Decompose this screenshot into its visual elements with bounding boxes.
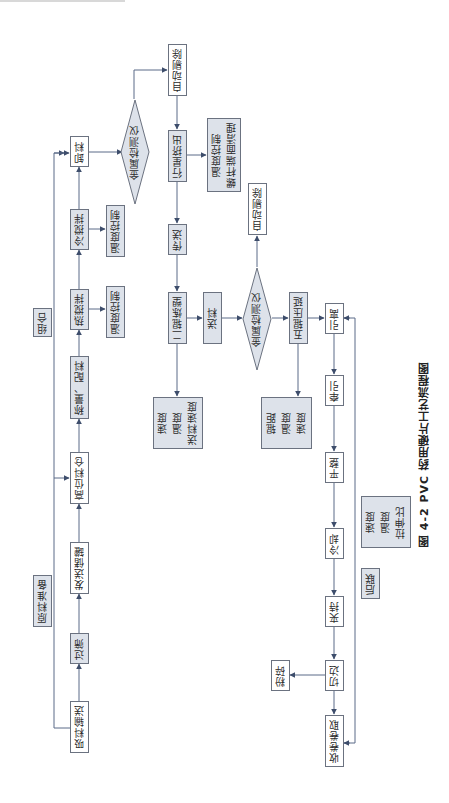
node-label: 五辊压延 [294,296,304,340]
node-label: 自动剔除 [253,187,263,231]
node-label: 切边 [330,665,340,687]
param-label: 速度 [366,506,376,539]
node-flattening: 平整 [325,452,344,483]
node-label: 冷搅拌 [75,213,85,246]
node-screening: 过筛 [70,633,89,664]
stage-post-link: 后联 [361,568,380,599]
node-feeding: 送料 [203,292,222,344]
param-label: 拉伸比 [396,506,406,539]
node-label: 冷却 [330,533,340,555]
param-label: 温度 [173,401,183,445]
params-five-roll: 辊距 温度 速度 [261,397,312,449]
node-weighing-batching: 称量、配料 [70,356,89,419]
decision-metal-detector-2: 金属检测仪 [242,267,272,371]
figure-caption: 图 4-2 PVC 药用硬片工艺流程图 [414,330,434,580]
node-label: 温度控制 [212,122,222,188]
param-label: 速度 [297,412,307,434]
node-conveying: 传送 [168,224,187,255]
param-label: 辊距 [267,412,277,434]
stage-label: 后联 [366,573,376,595]
node-high-level-silo: 高位料仓 [70,452,89,504]
control-hot-mix-temp: 温度控制 [106,286,125,338]
node-unloading: 卸料 [70,136,89,167]
node-label: 金属检测仪 [130,125,140,180]
node-label: 二辊炼塑 [173,296,183,340]
node-label: 热搅拌 [75,293,85,326]
node-label: 卸料 [75,141,85,163]
node-hot-mixing: 热搅拌 [70,289,89,330]
caption-text: 图 4-2 PVC 药用硬片工艺流程图 [419,362,430,547]
node-planetary-extrusion: 行星挤出 [168,130,187,182]
param-label: 速度 [158,401,168,445]
node-suction-conveying: 吸料输送 [70,701,89,753]
node-label: 温度控制 [111,209,121,253]
stage-combination: 组合 [33,308,52,337]
node-label: 平整 [330,457,340,479]
node-label: 高位料仓 [75,456,85,500]
node-label: 收卷卷取 [330,719,340,763]
node-label: 牵引 [330,380,340,402]
node-label: 螺杆端面清理 [227,122,237,188]
node-auto-reject-1: 自动剔除 [168,44,187,96]
node-label: 传送 [173,229,183,251]
node-five-roll-calendering: 五辊压延 [289,292,308,344]
params-two-roll: 速度 温度 送料速度 [153,397,203,449]
control-extruder: 温度控制 螺杆端面清理 [207,118,241,192]
node-take-off: 引离 [325,303,344,334]
param-label: 温度 [282,412,292,434]
node-winding: 收卷卷取 [325,715,344,767]
node-label: 引离 [330,308,340,330]
node-send-storage-tank: 发送储罐 [70,542,89,594]
node-cold-mixing: 冷搅拌 [70,209,89,250]
stage-raw-material-prep: 原料准备 [33,575,52,627]
node-cooling: 冷却 [325,528,344,559]
node-auto-reject-2: 自动剔除 [248,183,267,235]
node-label: 发送储罐 [75,546,85,590]
node-two-roll-plasticizing: 二辊炼塑 [168,292,187,344]
stage-label: 原料准备 [38,579,48,623]
node-edge-trimming: 切边 [325,660,344,691]
decision-metal-detector-1: 金属检测仪 [120,99,150,205]
node-label: 自动剔除 [173,48,183,92]
params-post: 速度 温度 拉伸比 [361,496,411,548]
param-label: 温度 [381,506,391,539]
node-label: 金属检测仪 [252,292,262,347]
node-traction: 牵引 [325,375,344,406]
node-label: 吸料输送 [75,705,85,749]
stage-label: 组合 [38,312,48,334]
node-label: 行星挤出 [173,134,183,178]
node-crushing: 粉碎 [271,660,290,691]
node-label: 称量、配料 [75,360,85,415]
node-label: 温度控制 [111,290,121,334]
node-clamping: 夹持 [325,596,344,627]
node-label: 过筛 [75,638,85,660]
node-label: 粉碎 [276,665,286,687]
node-label: 夹持 [330,601,340,623]
param-label: 送料速度 [188,401,198,445]
control-cold-mix-temp: 温度控制 [106,205,125,257]
node-label: 送料 [208,307,218,329]
